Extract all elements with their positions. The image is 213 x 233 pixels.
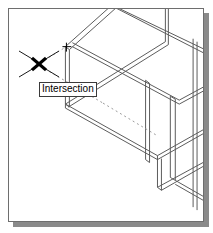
top-right-diagonal-beam xyxy=(112,9,203,53)
right-mid-beam xyxy=(157,130,203,160)
cad-screenshot: Intersection xyxy=(0,0,213,233)
intersection-snap-x-icon[interactable] xyxy=(17,43,61,85)
right-vertical-column xyxy=(170,96,175,180)
right-upper-connector xyxy=(179,87,203,104)
structural-wireframe-geometry xyxy=(65,9,203,210)
snap-tooltip: Intersection xyxy=(39,82,97,97)
upper-vertical-column xyxy=(65,47,69,107)
cad-drawing-viewport[interactable]: Intersection xyxy=(8,8,204,222)
upper-right-vertical-riser xyxy=(165,9,168,45)
cad-geometry-canvas[interactable] xyxy=(9,9,203,221)
far-right-column xyxy=(193,39,197,210)
intersection-node-marker xyxy=(62,43,71,52)
bottom-right-diagonal-beam xyxy=(175,180,203,200)
right-lower-beam xyxy=(157,156,203,191)
long-lower-diagonal-beam xyxy=(65,104,157,159)
